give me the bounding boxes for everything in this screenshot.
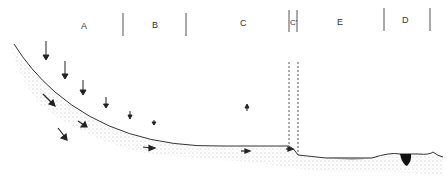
zone-label-b: B	[152, 20, 158, 30]
diagram-canvas: A B C C' E D	[0, 0, 448, 179]
upward-arrow	[245, 104, 249, 111]
zone-labels: A B C C' E D	[81, 15, 409, 31]
zone-label-e: E	[337, 17, 343, 27]
zone-label-d: D	[402, 15, 409, 25]
c-prime-dashed-boundary	[289, 62, 298, 155]
zone-label-a: A	[81, 21, 87, 31]
zone-dividers	[123, 8, 430, 36]
surface-profile-line	[14, 44, 443, 158]
zone-label-c: C	[240, 18, 247, 28]
zone-label-c-prime: C'	[290, 18, 298, 27]
profile-diagram: A B C C' E D	[0, 0, 448, 179]
